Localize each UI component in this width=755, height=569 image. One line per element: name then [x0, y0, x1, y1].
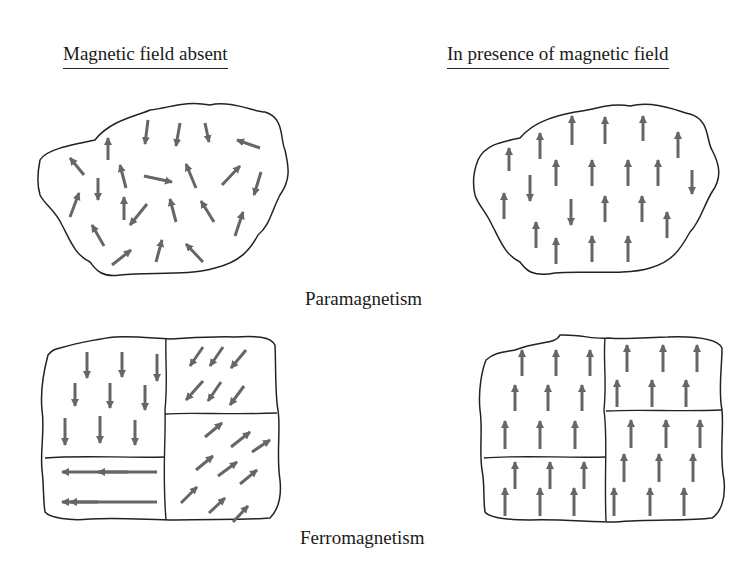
magnetic-moment-arrow-icon — [237, 140, 260, 148]
magnetic-moment-arrow-icon — [120, 165, 126, 188]
domain-boundary — [606, 410, 722, 411]
magnetic-moment-arrow-icon — [254, 172, 261, 195]
panel-para-absent — [38, 103, 288, 275]
sample-outline — [38, 103, 288, 275]
sample-outline — [474, 104, 719, 274]
panel-ferro-absent — [41, 337, 280, 522]
magnetic-moment-arrow-icon — [252, 440, 270, 452]
domain-boundary — [484, 457, 606, 458]
panel-para-present — [474, 104, 719, 274]
magnetic-moment-arrow-icon — [130, 204, 147, 225]
domain-boundary — [165, 413, 277, 414]
magnetic-moment-arrow-icon — [186, 164, 196, 188]
sample-outline — [479, 335, 724, 522]
magnetic-moment-arrow-icon — [196, 456, 213, 470]
magnetic-moment-arrow-icon — [144, 176, 172, 182]
magnetic-moment-arrow-icon — [208, 382, 221, 401]
magnetic-moment-arrow-icon — [201, 201, 214, 222]
magnetic-moment-arrow-icon — [235, 212, 243, 236]
magnetic-moment-arrow-icon — [231, 432, 250, 447]
magnetic-moment-arrow-icon — [181, 487, 197, 503]
magnetic-moment-arrow-icon — [170, 199, 176, 222]
magnetic-moment-arrow-icon — [230, 386, 244, 405]
magnetic-moment-arrow-icon — [156, 240, 162, 262]
magnetic-moment-arrow-icon — [186, 244, 203, 262]
panel-ferro-present — [479, 335, 724, 522]
magnetic-moment-arrow-icon — [92, 225, 104, 246]
domain-boundary — [604, 338, 606, 521]
magnetic-moment-arrow-icon — [205, 123, 209, 142]
magnetic-moment-arrow-icon — [231, 350, 246, 368]
magnetic-moment-arrow-icon — [112, 250, 131, 265]
sample-outline — [41, 337, 280, 520]
domain-boundary — [164, 338, 166, 520]
magnetic-moment-arrow-icon — [145, 120, 148, 144]
domain-boundary — [45, 457, 165, 458]
magnetic-moment-arrow-icon — [240, 470, 257, 484]
magnetic-moment-arrow-icon — [209, 498, 225, 513]
magnetic-moment-arrow-icon — [190, 347, 203, 366]
magnetism-diagram — [0, 0, 755, 569]
magnetic-moment-arrow-icon — [205, 423, 222, 437]
magnetic-moment-arrow-icon — [210, 347, 223, 366]
magnetic-moment-arrow-icon — [186, 381, 203, 400]
magnetic-moment-arrow-icon — [222, 166, 240, 185]
magnetic-moment-arrow-icon — [70, 193, 79, 217]
magnetic-moment-arrow-icon — [218, 462, 237, 476]
magnetic-moment-arrow-icon — [176, 123, 180, 146]
magnetic-moment-arrow-icon — [70, 158, 84, 175]
